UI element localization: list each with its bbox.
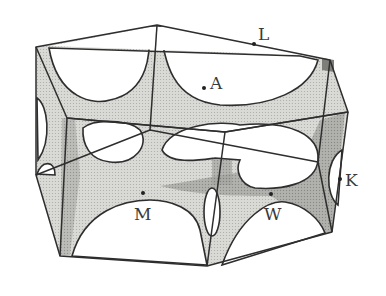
point-a-dot xyxy=(202,86,206,90)
point-m-dot xyxy=(141,191,145,195)
point-l-dot xyxy=(252,42,256,46)
point-a-label: A xyxy=(209,73,223,93)
point-k-dot xyxy=(338,177,342,181)
point-w-dot xyxy=(269,192,273,196)
point-w-label: W xyxy=(264,204,282,224)
brillouin-zone-diagram: L A M W K xyxy=(0,0,386,296)
point-m-label: M xyxy=(134,204,151,224)
point-l-label: L xyxy=(258,24,269,44)
point-k-label: K xyxy=(345,170,358,190)
